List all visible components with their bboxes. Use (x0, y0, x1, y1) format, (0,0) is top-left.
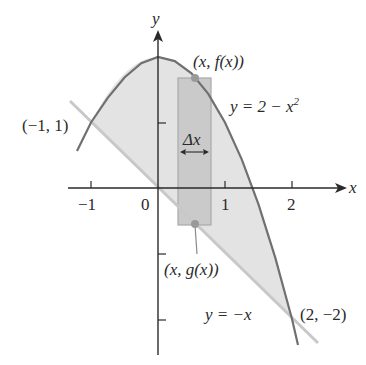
top-point-label: (x, f(x)) (193, 52, 244, 71)
parabola-equation-text: y = 2 − x (228, 97, 294, 116)
x-tick-label: −1 (78, 195, 96, 214)
delta-x-text: Δx (182, 130, 201, 149)
top-point-dot (191, 74, 199, 82)
bottom-point-leader (195, 225, 197, 254)
left-intersection-label: (−1, 1) (22, 116, 68, 135)
x-tick-label: 2 (287, 195, 296, 214)
y-axis-label: y (150, 9, 160, 28)
right-intersection-label: (2, −2) (300, 305, 346, 324)
x-axis-label: x (348, 178, 357, 197)
area-between-curves-diagram: y x −1 0 1 2 Δx (x, f(x)) y = 2 − x2 (−1… (0, 0, 366, 365)
line-equation-label: y = −x (203, 305, 252, 324)
bottom-point-dot (191, 220, 199, 228)
delta-x-label: Δx (182, 130, 201, 149)
parabola-exponent: 2 (294, 95, 300, 107)
x-tick-label: 1 (221, 195, 230, 214)
x-tick-label: 0 (141, 195, 150, 214)
parabola-equation-label: y = 2 − x2 (228, 95, 300, 116)
bottom-point-label: (x, g(x)) (164, 260, 219, 279)
